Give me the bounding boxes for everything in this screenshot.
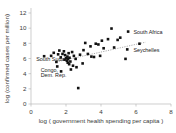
data-point (68, 63, 71, 66)
x-tick-label: 4 (99, 108, 103, 115)
data-point (74, 58, 77, 61)
data-point (113, 46, 116, 49)
data-point (101, 39, 104, 42)
data-point (89, 45, 92, 48)
y-tick-label: 6 (23, 55, 27, 62)
data-point (70, 68, 73, 71)
point-annotation: Dem. Rep. (41, 72, 67, 78)
data-point (110, 27, 113, 30)
data-point (81, 62, 84, 65)
data-point (61, 53, 64, 56)
data-point (57, 53, 60, 56)
data-point (79, 53, 82, 56)
data-point (77, 87, 80, 90)
data-point (102, 47, 105, 50)
y-tick-label: 10 (20, 24, 27, 31)
scatter-chart: 02468101202468 South AfricaSeychellesSou… (0, 0, 176, 133)
data-point (87, 53, 90, 56)
data-point (75, 66, 78, 69)
x-tick-label: 2 (64, 108, 68, 115)
data-point (94, 42, 97, 45)
annotations-group: South AfricaSeychellesSouth SudanCongo,D… (36, 29, 162, 78)
point-annotation: Seychelles (133, 47, 159, 53)
data-point (73, 55, 76, 58)
chart-canvas: 02468101202468 South AfricaSeychellesSou… (0, 0, 176, 133)
data-point (63, 50, 66, 53)
data-point (71, 51, 74, 54)
data-point (138, 42, 141, 45)
data-point (119, 36, 122, 39)
data-point (97, 43, 100, 46)
point-annotation: South Sudan (36, 56, 67, 62)
data-point (107, 38, 110, 41)
y-tick-label: 4 (23, 70, 27, 77)
data-point (127, 30, 130, 33)
data-point (52, 52, 55, 55)
data-point (69, 60, 72, 63)
data-point (93, 56, 96, 59)
y-axis-title: log (confirmed cases per million) (3, 14, 10, 103)
x-tick-label: 8 (169, 108, 173, 115)
data-point (99, 55, 102, 58)
x-tick-label: 0 (29, 108, 33, 115)
x-axis-title: log ( government health spending per cap… (39, 117, 164, 124)
y-tick-label: 8 (23, 40, 27, 47)
data-point (90, 55, 93, 58)
data-point (84, 42, 87, 45)
y-tick-label: 12 (20, 9, 27, 16)
data-point (124, 58, 127, 61)
data-point (116, 39, 119, 42)
data-point (58, 49, 61, 52)
point-annotation: South Africa (133, 29, 162, 35)
data-point (67, 52, 70, 55)
data-point (82, 49, 85, 52)
data-point (68, 56, 71, 59)
data-point (72, 64, 75, 67)
y-tick-label: 2 (23, 85, 27, 92)
x-tick-label: 6 (134, 108, 138, 115)
data-point (126, 48, 129, 51)
y-tick-label: 0 (23, 100, 27, 107)
